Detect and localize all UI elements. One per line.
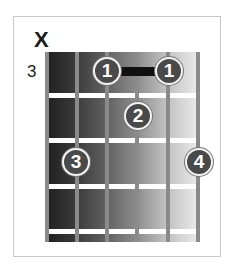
string-2 [75,52,79,242]
fret-1 [45,93,196,98]
string-4 [135,52,139,242]
finger-dot-4: 4 [185,148,213,176]
string-1 [45,52,49,242]
start-fret-label: 3 [27,62,36,82]
finger-dot-1-string5: 1 [155,57,183,85]
muted-string-marker: X [34,29,49,51]
finger-dot-1-string3: 1 [93,57,121,85]
fret-3 [45,184,196,189]
fret-2 [45,138,196,143]
fret-4 [45,229,196,234]
finger-dot-3: 3 [62,148,90,176]
barre-bar [116,67,160,76]
string-6 [196,52,200,242]
finger-dot-2: 2 [124,102,152,130]
